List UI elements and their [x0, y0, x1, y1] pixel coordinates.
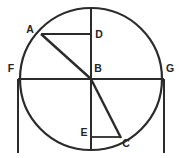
segment-BA-radius	[41, 34, 91, 79]
point-label-B: B	[94, 62, 102, 74]
point-label-D: D	[95, 28, 103, 40]
segment-BC-radius	[91, 79, 121, 138]
point-label-A: A	[26, 23, 34, 35]
point-label-G: G	[166, 62, 174, 74]
geometry-diagram-canvas: ABCDEFG	[0, 0, 180, 158]
geometry-figure: ABCDEFG	[0, 0, 180, 158]
point-label-F: F	[8, 62, 15, 74]
point-label-C: C	[122, 137, 130, 149]
point-label-E: E	[80, 126, 87, 138]
